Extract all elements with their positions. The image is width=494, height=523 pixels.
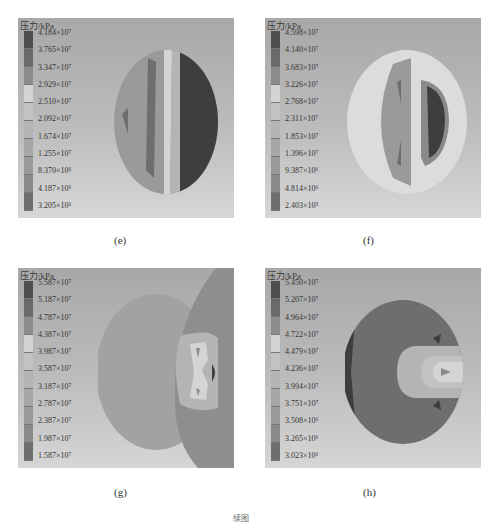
legend-label: 3.205×10³ — [38, 201, 71, 210]
legend-labels: 5.450×10⁷ 5.207×10⁷ 4.964×10⁷ 4.722×10⁷ … — [285, 278, 318, 460]
legend-label: 4.184×10⁷ — [38, 28, 71, 37]
legend-colorbar — [271, 281, 280, 461]
legend-label: 2.768×10⁷ — [285, 97, 318, 106]
legend-colorbar — [24, 31, 33, 211]
legend-label: 4.140×10⁷ — [285, 45, 318, 54]
legend-label: 4.479×10⁷ — [285, 347, 318, 356]
caption-f: (f) — [363, 234, 374, 246]
legend-label: 3.683×10⁷ — [285, 63, 318, 72]
legend-label: 2.787×10⁷ — [38, 399, 71, 408]
caption-g: (g) — [114, 486, 127, 498]
legend-label: 4.964×10⁷ — [285, 313, 318, 322]
legend-label: 3.994×10⁷ — [285, 382, 318, 391]
legend-label: 3.765×10⁷ — [38, 45, 71, 54]
legend-label: 3.023×10⁶ — [285, 451, 318, 460]
legend-labels: 4.184×10⁷ 3.765×10⁷ 3.347×10⁷ 2.929×10⁷ … — [38, 28, 71, 210]
legend-labels: 5.587×10⁷ 5.187×10⁷ 4.787×10⁷ 4.387×10⁷ … — [38, 278, 71, 460]
legend-label: 4.387×10⁷ — [38, 330, 71, 339]
legend-label: 3.347×10⁷ — [38, 63, 71, 72]
legend-label: 8.370×10⁶ — [38, 166, 71, 175]
legend-label: 2.510×10⁷ — [38, 97, 71, 106]
contour-plot-f — [345, 18, 481, 218]
legend-label: 3.587×10⁷ — [38, 364, 71, 373]
legend-label: 3.226×10⁷ — [285, 80, 318, 89]
legend-label: 1.255×10⁷ — [38, 149, 71, 158]
legend-label: 3.751×10⁷ — [285, 399, 318, 408]
legend-label: 2.311×10⁷ — [285, 114, 318, 123]
caption-h: (h) — [363, 486, 376, 498]
legend-label: 3.265×10⁶ — [285, 434, 318, 443]
legend-label: 3.987×10⁷ — [38, 347, 71, 356]
contour-plot-h — [345, 268, 481, 468]
legend-label: 1.396×10⁷ — [285, 149, 318, 158]
panel-g: 压力/kPa 5.587×10⁷ 5.187×10⁷ 4.787×10⁷ 4.3… — [18, 268, 234, 468]
legend-label: 4.236×10⁷ — [285, 364, 318, 373]
legend-label: 4.814×10⁶ — [285, 184, 318, 193]
legend-label: 5.207×10⁷ — [285, 295, 318, 304]
panel-h: 压力/kPa 5.450×10⁷ 5.207×10⁷ 4.964×10⁷ 4.7… — [265, 268, 481, 468]
caption-e: (e) — [114, 234, 126, 246]
legend-label: 1.674×10⁷ — [38, 132, 71, 141]
legend-label: 4.722×10⁷ — [285, 330, 318, 339]
legend-label: 5.587×10⁷ — [38, 278, 71, 287]
legend-label: 2.403×10⁵ — [285, 201, 318, 210]
figure-caption: 续图 — [233, 512, 249, 523]
legend-label: 3.187×10⁷ — [38, 382, 71, 391]
legend-colorbar — [24, 281, 33, 461]
panel-e: 压力/kPa 4.184×10⁷ 3.765×10⁷ 3.347×10⁷ 2.9… — [18, 18, 234, 218]
contour-plot-e — [98, 18, 234, 218]
contour-plot-g — [98, 268, 234, 468]
legend-label: 2.387×10⁷ — [38, 416, 71, 425]
legend-label: 2.929×10⁷ — [38, 80, 71, 89]
legend-label: 1.853×10⁷ — [285, 132, 318, 141]
legend-label: 4.787×10⁷ — [38, 313, 71, 322]
legend-labels: 4.598×10⁷ 4.140×10⁷ 3.683×10⁷ 3.226×10⁷ … — [285, 28, 318, 210]
panel-f: 压力/kPa 4.598×10⁷ 4.140×10⁷ 3.683×10⁷ 3.2… — [265, 18, 481, 218]
legend-label: 4.598×10⁷ — [285, 28, 318, 37]
legend-label: 1.987×10⁷ — [38, 434, 71, 443]
legend-label: 3.508×10⁶ — [285, 416, 318, 425]
legend-label: 4.187×10⁶ — [38, 184, 71, 193]
legend-label: 5.187×10⁷ — [38, 295, 71, 304]
legend-label: 9.387×10⁶ — [285, 166, 318, 175]
legend-label: 5.450×10⁷ — [285, 278, 318, 287]
legend-label: 1.587×10⁷ — [38, 451, 71, 460]
legend-colorbar — [271, 31, 280, 211]
legend-label: 2.092×10⁷ — [38, 114, 71, 123]
